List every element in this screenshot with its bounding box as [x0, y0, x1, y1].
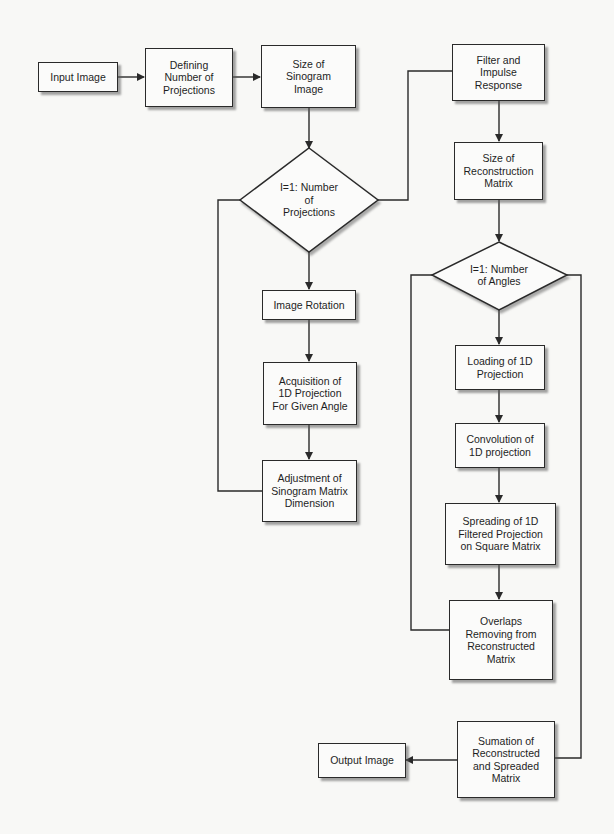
node-label: Input Image [50, 71, 105, 84]
node-label: Filter and Impulse Response [475, 54, 522, 92]
node-label: Defining Number of Projections [163, 59, 215, 97]
node-size-sinogram: Size of Sinogram Image [261, 45, 356, 108]
edge-loop-to-sumation [555, 275, 581, 758]
edge-adjustment-loop-back [218, 200, 262, 491]
node-label: Output Image [330, 754, 394, 767]
node-size-reconstruction: Size of Reconstruction Matrix [454, 142, 543, 200]
node-acquisition: Acquisition of 1D Projection For Given A… [263, 362, 357, 425]
node-label: Loading of 1D Projection [467, 355, 532, 380]
node-output-image: Output Image [318, 743, 406, 778]
edge-loop-to-filter [378, 71, 452, 200]
node-label: I=1: Number of Projections [280, 181, 338, 219]
node-adjustment: Adjustment of Sinogram Matrix Dimension [262, 460, 357, 522]
diamond-loop-angles-text: I=1: Number of Angles [449, 258, 549, 292]
node-label: Acquisition of 1D Projection For Given A… [272, 375, 347, 413]
node-spreading: Spreading of 1D Filtered Projection on S… [445, 503, 556, 565]
edge-overlaps-loop-back [411, 275, 449, 630]
node-label: Size of Reconstruction Matrix [463, 152, 533, 190]
node-label: Image Rotation [273, 299, 344, 312]
node-label: Adjustment of Sinogram Matrix Dimension [271, 472, 347, 510]
node-label: Sumation of Reconstructed and Spreaded M… [472, 735, 540, 785]
node-sumation: Sumation of Reconstructed and Spreaded M… [457, 721, 555, 798]
node-overlaps: Overlaps Removing from Reconstructed Mat… [449, 600, 553, 680]
node-input-image: Input Image [38, 62, 118, 92]
node-convolution: Convolution of 1D projection [455, 423, 545, 468]
node-label: Convolution of 1D projection [466, 433, 533, 458]
node-defining-projections: Defining Number of Projections [145, 48, 233, 107]
node-filter-impulse: Filter and Impulse Response [452, 44, 545, 101]
node-loading: Loading of 1D Projection [455, 345, 545, 390]
node-image-rotation: Image Rotation [262, 290, 356, 320]
node-label: Spreading of 1D Filtered Projection on S… [458, 515, 543, 553]
node-label: Size of Sinogram Image [286, 58, 331, 96]
node-label: I=1: Number of Angles [470, 263, 528, 288]
diamond-loop-projections-text: I=1: Number of Projections [255, 170, 363, 230]
node-label: Overlaps Removing from Reconstructed Mat… [465, 615, 536, 665]
flowchart-canvas: Input Image Defining Number of Projectio… [0, 0, 614, 834]
